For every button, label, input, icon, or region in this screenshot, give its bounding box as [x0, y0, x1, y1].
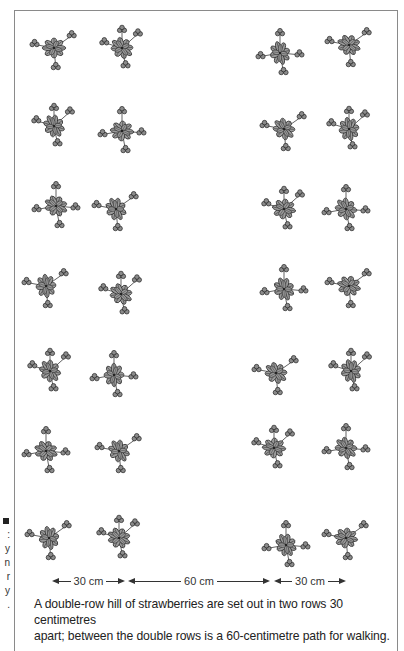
strawberry-plant-icon: [327, 348, 375, 394]
strawberry-plant-icon: [98, 108, 146, 154]
strawberry-plant-icon: [97, 271, 145, 317]
strawberry-plant-icon: [22, 428, 70, 474]
strawberry-plant-icon: [322, 515, 370, 561]
strawberry-plant-icon: [260, 106, 308, 152]
arrow-right-icon: [118, 578, 125, 584]
strawberry-plant-icon: [25, 515, 73, 561]
arrow-left-icon: [274, 578, 281, 584]
strawberry-plant-icon: [30, 25, 78, 71]
dimension-label: 30 cm: [292, 575, 328, 587]
caption-line-2: apart; between the double rows is a 60-c…: [34, 628, 394, 644]
caption-line-1: A double-row hill of strawberries are se…: [34, 596, 394, 628]
dimension-line: 30 cm: [274, 574, 346, 588]
arrow-left-icon: [52, 578, 59, 584]
fragment: .: [0, 598, 10, 612]
strawberry-plant-icon: [95, 515, 143, 561]
strawberry-plant-icon: [26, 348, 74, 394]
strawberry-plant-icon: [92, 186, 140, 232]
dimension-line: 60 cm: [128, 574, 270, 588]
figure-caption: A double-row hill of strawberries are se…: [34, 596, 394, 644]
strawberry-plant-icon: [256, 30, 304, 76]
fragment: :: [0, 528, 10, 542]
strawberry-plant-icon: [250, 425, 298, 471]
fragment: y: [0, 542, 10, 556]
strawberry-plant-icon: [325, 22, 373, 68]
caption-marker: [3, 518, 9, 524]
strawberry-plant-icon: [260, 186, 308, 232]
strawberry-plant-icon: [32, 183, 80, 229]
dimension-label: 30 cm: [71, 575, 107, 587]
strawberry-plant-icon: [325, 263, 373, 309]
strawberry-plant-icon: [262, 522, 310, 568]
strawberry-plant-icon: [22, 263, 70, 309]
strawberry-plant-icon: [98, 25, 146, 71]
dimension-label: 60 cm: [181, 575, 217, 587]
arrow-left-icon: [128, 578, 135, 584]
strawberry-plant-icon: [260, 266, 308, 312]
spacing-measurements: 30 cm60 cm30 cm: [0, 574, 404, 588]
dimension-line: 30 cm: [52, 574, 125, 588]
strawberry-plant-icon: [252, 350, 300, 396]
strawberry-plant-icon: [30, 103, 78, 149]
strawberry-plant-icon: [90, 352, 138, 398]
strawberry-plant-icon: [322, 425, 370, 471]
strawberry-plant-icon: [322, 186, 370, 232]
strawberry-plant-icon: [325, 106, 373, 152]
arrow-right-icon: [263, 578, 270, 584]
arrow-right-icon: [339, 578, 346, 584]
strawberry-plant-icon: [95, 428, 143, 474]
cropped-side-caption: : y n r y .: [0, 518, 10, 612]
fragment: n: [0, 556, 10, 570]
